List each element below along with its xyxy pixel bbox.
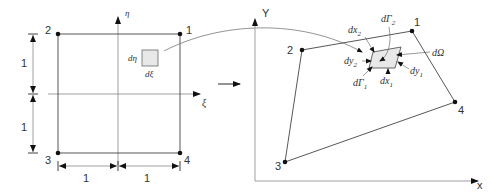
physical-element: Y x 1 2 3 4 dx2 dΓ2 dy2 dΩ dy1 dΓ1 — [255, 7, 483, 191]
dgamma1-label: dΓ1 — [353, 77, 367, 91]
dim-vertical-bottom-label: 1 — [21, 121, 27, 133]
ref-node-3-label: 3 — [45, 154, 51, 166]
phys-node-4-label: 4 — [458, 104, 464, 116]
phys-node-1 — [410, 29, 415, 34]
ref-node-4-label: 4 — [184, 154, 190, 166]
differential-mapping-curve — [164, 28, 362, 52]
eta-axis-label: η — [125, 8, 130, 18]
dx1-label: dx1 — [380, 75, 393, 89]
ref-node-4 — [178, 151, 183, 156]
phys-node-3 — [283, 160, 288, 165]
ref-differential-area — [142, 50, 158, 66]
d-eta-label: dη — [128, 53, 138, 63]
horizontal-dimension: 1 1 — [58, 161, 180, 184]
ref-node-1-label: 1 — [186, 24, 192, 36]
phys-node-2-label: 2 — [287, 44, 293, 56]
dim-horizontal-right-label: 1 — [144, 172, 150, 184]
phys-node-4 — [453, 100, 458, 105]
phys-differential-area — [369, 47, 401, 68]
domega-pointer — [397, 52, 430, 55]
dim-horizontal-left-label: 1 — [83, 172, 89, 184]
dy2-label: dy2 — [344, 55, 357, 69]
vertical-dimension: 1 1 — [21, 34, 38, 153]
xi-axis-label: ξ — [202, 97, 207, 109]
dy1-label: dy1 — [410, 65, 423, 79]
dgamma1-pointer — [363, 67, 372, 76]
dx2-pointer — [365, 37, 374, 52]
ref-node-3 — [56, 151, 61, 156]
ref-node-2 — [56, 32, 61, 37]
x-axis-label: x — [477, 179, 483, 191]
ref-node-1 — [178, 32, 183, 37]
reference-square — [58, 34, 180, 153]
physical-quadrilateral — [285, 31, 455, 162]
d-xi-label: dξ — [145, 69, 154, 79]
dy1-pointer — [398, 62, 409, 69]
y-axis-label: Y — [262, 7, 270, 19]
phys-node-1-label: 1 — [414, 16, 420, 28]
phys-node-2 — [300, 48, 305, 53]
dx2-label: dx2 — [348, 24, 361, 38]
reference-element: η ξ 1 2 3 4 dη dξ 1 1 — [21, 8, 207, 184]
domega-label: dΩ — [432, 47, 444, 58]
dim-vertical-top-label: 1 — [21, 57, 27, 69]
phys-node-3-label: 3 — [275, 160, 281, 172]
dgamma2-label: dΓ2 — [381, 13, 396, 27]
isoparametric-mapping-diagram: η ξ 1 2 3 4 dη dξ 1 1 — [0, 0, 500, 194]
ref-node-2-label: 2 — [45, 24, 51, 36]
